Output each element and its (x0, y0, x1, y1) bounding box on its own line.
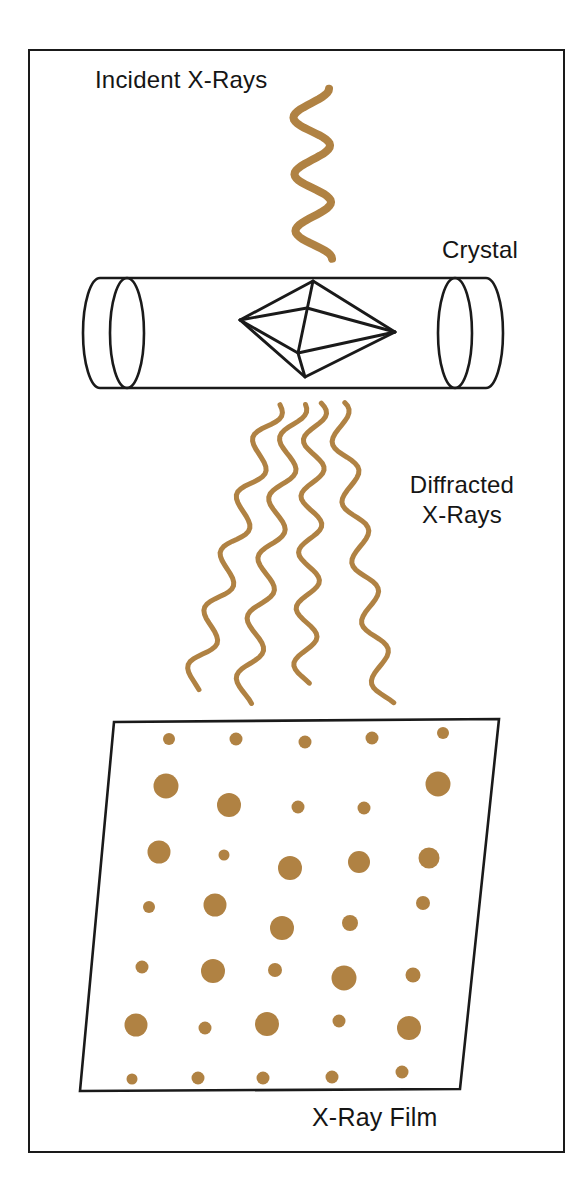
tube-left-opening (110, 278, 144, 388)
diffraction-spot (125, 1014, 148, 1037)
diffraction-spot (257, 1072, 270, 1085)
diffraction-spot (396, 1066, 409, 1079)
incident-xrays-label: Incident X-Rays (95, 66, 267, 94)
crystal-back-edge (240, 308, 395, 332)
diffraction-spot (426, 772, 451, 797)
diffracted-label-line2: X-Rays (398, 500, 526, 530)
diffraction-spots (125, 727, 451, 1085)
diagram-art (0, 0, 576, 1188)
diffraction-spot (366, 732, 379, 745)
diffraction-spot (127, 1074, 138, 1085)
diffraction-spot (154, 774, 179, 799)
diffraction-spot (192, 1072, 205, 1085)
diffraction-spot (292, 801, 305, 814)
diffracted-xrays-label: Diffracted X-Rays (398, 470, 526, 530)
diffraction-spot (278, 856, 302, 880)
xray-film-label: X-Ray Film (312, 1103, 438, 1132)
diffraction-spot (230, 733, 243, 746)
diffraction-spot (333, 1015, 346, 1028)
diffraction-spot (299, 736, 312, 749)
xray-waves (188, 89, 394, 704)
crystal-label: Crystal (442, 236, 518, 264)
diffraction-spot (199, 1022, 212, 1035)
diffraction-spot (406, 968, 421, 983)
crystal-outline (240, 281, 395, 377)
tube-body (83, 278, 503, 388)
diffraction-spot (397, 1016, 421, 1040)
diffraction-spot (219, 850, 230, 861)
crystal-octahedron (240, 281, 395, 377)
diffraction-spot (268, 963, 282, 977)
diffraction-spot (143, 901, 155, 913)
crystal-vertical-edge (298, 281, 313, 377)
diffracted-xray-wave-4 (332, 403, 394, 703)
diffraction-spot (437, 727, 449, 739)
diffraction-spot (270, 916, 294, 940)
diffraction-spot (419, 848, 440, 869)
diffracted-xray-wave-3 (294, 403, 327, 683)
diffraction-spot (342, 915, 358, 931)
xray-crystallography-diagram: Incident X-Rays Crystal Diffracted X-Ray… (0, 0, 576, 1188)
diffraction-spot (358, 802, 371, 815)
diffraction-spot (348, 851, 370, 873)
diffraction-spot (255, 1012, 279, 1036)
diffraction-spot (148, 841, 171, 864)
diffracted-label-line1: Diffracted (398, 470, 526, 500)
incident-xray-wave (294, 89, 333, 259)
diffraction-spot (204, 894, 227, 917)
capillary-tube (83, 278, 503, 388)
tube-right-opening (438, 278, 472, 388)
diffraction-spot (332, 966, 357, 991)
diffraction-spot (201, 959, 225, 983)
diffraction-spot (136, 961, 149, 974)
diffraction-spot (416, 896, 430, 910)
diffraction-spot (217, 793, 241, 817)
diffraction-spot (163, 733, 175, 745)
diffraction-spot (326, 1071, 339, 1084)
